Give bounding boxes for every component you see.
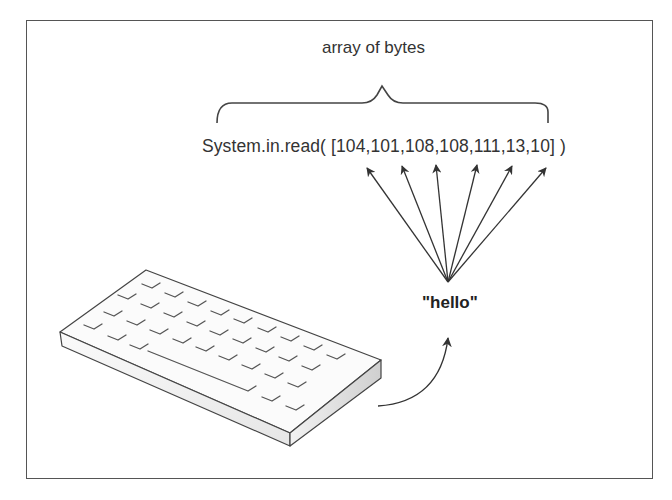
arrow-icon <box>436 165 448 282</box>
arrow-icon <box>367 168 448 282</box>
method-call-label: System.in.read( [104,101,108,108,111,13,… <box>202 136 566 157</box>
arrow-icon <box>402 166 448 282</box>
diagram-graphics <box>0 0 672 500</box>
brace-label: array of bytes <box>322 38 425 58</box>
input-string-label: "hello" <box>422 293 478 313</box>
arrow-icon <box>448 166 512 282</box>
byte-arrows <box>367 165 546 282</box>
keyboard-icon <box>60 270 381 446</box>
curved-arrow-icon <box>378 338 448 406</box>
curly-brace-icon <box>217 86 548 123</box>
